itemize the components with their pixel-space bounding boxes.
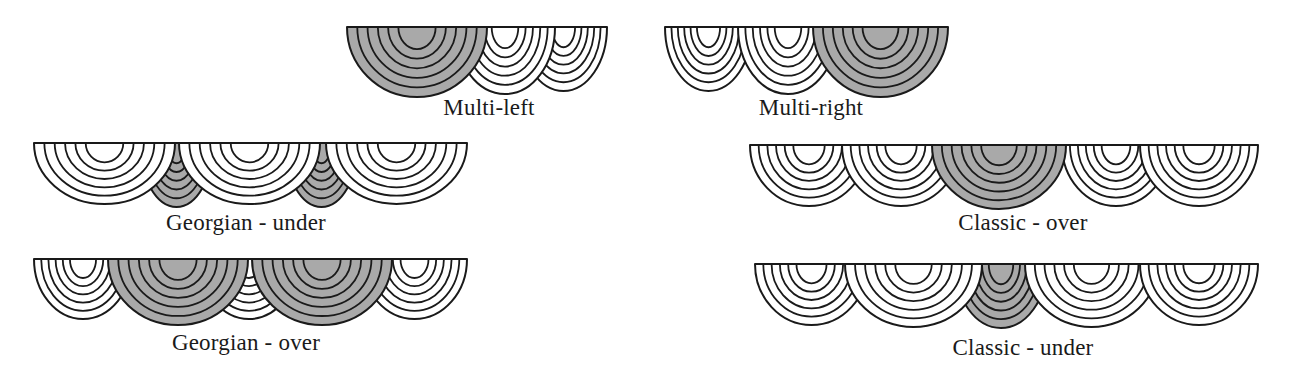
label-georgian-over: Georgian - over xyxy=(172,330,320,356)
label-multi-right: Multi-right xyxy=(759,95,863,121)
diagram-classic-over xyxy=(750,145,1258,209)
shaded-swag xyxy=(252,259,392,325)
diagram-multi-left xyxy=(347,27,607,97)
label-multi-left: Multi-left xyxy=(443,95,534,121)
swag xyxy=(1140,264,1258,325)
swag xyxy=(326,143,467,204)
label-classic-under: Classic - under xyxy=(953,335,1094,361)
swag xyxy=(1025,264,1158,327)
label-classic-over: Classic - over xyxy=(958,210,1087,236)
shaded-swag xyxy=(813,27,948,97)
diagram-georgian-over xyxy=(34,259,467,325)
swag xyxy=(1140,145,1258,206)
shaded-swag xyxy=(347,27,487,97)
label-georgian-under: Georgian - under xyxy=(166,210,326,236)
diagram-multi-right xyxy=(665,27,948,97)
shaded-swag xyxy=(932,145,1066,209)
shaded-swag xyxy=(108,259,248,325)
swag-diagrams-canvas xyxy=(0,0,1293,379)
diagram-classic-under xyxy=(755,264,1258,328)
swag xyxy=(845,264,982,327)
diagram-georgian-under xyxy=(34,143,467,207)
